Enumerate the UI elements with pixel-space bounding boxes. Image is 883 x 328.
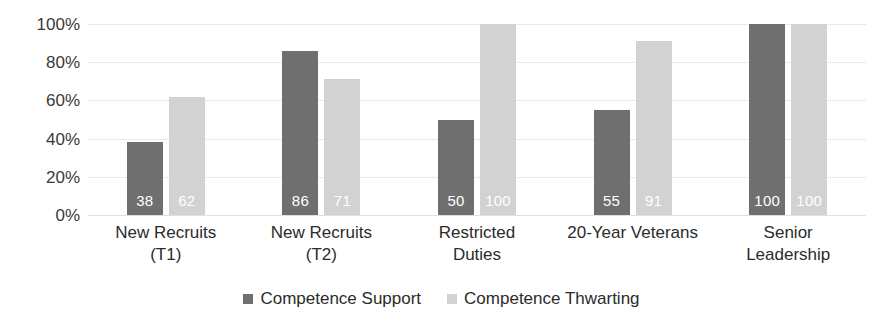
bar-group-bars: 5591 xyxy=(555,24,711,215)
x-axis-category-line: Senior xyxy=(710,222,866,244)
x-axis-category-line: (T2) xyxy=(244,244,400,266)
bar-group-bars: 50100 xyxy=(399,24,555,215)
bar-group-bars: 100100 xyxy=(710,24,866,215)
gridline xyxy=(88,215,866,216)
bar-value-label: 91 xyxy=(645,193,662,215)
x-axis-category-label: New Recruits(T1) xyxy=(88,222,244,266)
x-axis-category-line: (T1) xyxy=(88,244,244,266)
bar[interactable]: 71 xyxy=(324,79,360,215)
legend-swatch-icon xyxy=(243,294,253,304)
bar-value-label: 100 xyxy=(485,193,511,215)
bar-value-label: 62 xyxy=(178,193,195,215)
bar-group: 100100 xyxy=(710,24,866,215)
bar[interactable]: 62 xyxy=(169,97,205,215)
legend-item[interactable]: Competence Support xyxy=(243,290,421,307)
y-axis-tick-label: 60% xyxy=(0,92,80,109)
x-axis-category-line: New Recruits xyxy=(88,222,244,244)
x-axis-category-label: RestrictedDuties xyxy=(399,222,555,266)
y-axis-tick-label: 20% xyxy=(0,168,80,185)
x-axis-category-label: SeniorLeadership xyxy=(710,222,866,266)
legend-swatch-icon xyxy=(447,294,457,304)
bar-chart: 100%80%60%40%20%0% 386286715010055911001… xyxy=(0,0,883,328)
y-axis-tick-label: 40% xyxy=(0,130,80,147)
bar-value-label: 100 xyxy=(754,193,780,215)
bar-value-label: 38 xyxy=(136,193,153,215)
legend-item[interactable]: Competence Thwarting xyxy=(447,290,639,307)
x-axis-category-line: New Recruits xyxy=(244,222,400,244)
x-axis-category-line: 20-Year Veterans xyxy=(555,222,711,244)
y-axis-tick-label: 80% xyxy=(0,54,80,71)
bar-group-bars: 3862 xyxy=(88,24,244,215)
y-axis: 100%80%60%40%20%0% xyxy=(0,0,80,239)
bar-group: 8671 xyxy=(244,24,400,215)
bar[interactable]: 100 xyxy=(480,24,516,215)
bar[interactable]: 91 xyxy=(636,41,672,215)
x-axis-category-label: New Recruits(T2) xyxy=(244,222,400,266)
bar-value-label: 100 xyxy=(796,193,822,215)
x-axis-labels: New Recruits(T1)New Recruits(T2)Restrict… xyxy=(88,222,866,282)
bar-value-label: 50 xyxy=(447,193,464,215)
bar-group: 5591 xyxy=(555,24,711,215)
x-axis-category-line: Leadership xyxy=(710,244,866,266)
plot-area: 38628671501005591100100 xyxy=(88,24,866,215)
bar[interactable]: 55 xyxy=(594,110,630,215)
bar[interactable]: 100 xyxy=(791,24,827,215)
legend-label: Competence Support xyxy=(260,290,421,307)
bar-value-label: 86 xyxy=(292,193,309,215)
bar-value-label: 71 xyxy=(334,193,351,215)
bar[interactable]: 86 xyxy=(282,51,318,215)
bar-group-bars: 8671 xyxy=(244,24,400,215)
bar-value-label: 55 xyxy=(603,193,620,215)
bar-group: 3862 xyxy=(88,24,244,215)
bar-group: 50100 xyxy=(399,24,555,215)
x-axis-category-line: Restricted xyxy=(399,222,555,244)
x-axis-category-label: 20-Year Veterans xyxy=(555,222,711,244)
chart-legend: Competence SupportCompetence Thwarting xyxy=(0,290,883,307)
y-axis-tick-label: 100% xyxy=(0,16,80,33)
bar[interactable]: 50 xyxy=(438,120,474,216)
y-axis-tick-label: 0% xyxy=(0,207,80,224)
bar[interactable]: 100 xyxy=(749,24,785,215)
x-axis-category-line: Duties xyxy=(399,244,555,266)
legend-label: Competence Thwarting xyxy=(464,290,639,307)
bar[interactable]: 38 xyxy=(127,142,163,215)
